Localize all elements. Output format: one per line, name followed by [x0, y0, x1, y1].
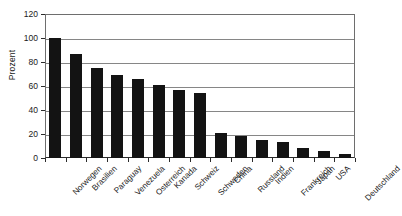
x-axis-tick — [107, 158, 108, 162]
x-axis-tick — [190, 158, 191, 162]
x-axis-tick-label: China — [232, 164, 254, 186]
bar — [318, 151, 330, 158]
x-axis-tick — [128, 158, 129, 162]
x-axis-tick — [86, 158, 87, 162]
x-axis-tick — [66, 158, 67, 162]
x-axis-tick-label: Schweiz — [193, 164, 221, 192]
x-axis-tick-label: USA — [334, 164, 352, 182]
y-axis-tick-label: 100 — [0, 34, 38, 43]
y-axis-tick-label: 0 — [0, 154, 38, 163]
bar — [194, 93, 206, 158]
x-axis-tick — [210, 158, 211, 162]
x-axis-tick — [334, 158, 335, 162]
x-axis-tick — [314, 158, 315, 162]
x-axis-tick — [272, 158, 273, 162]
bar — [153, 85, 165, 158]
bar — [256, 140, 268, 158]
bar — [173, 90, 185, 158]
x-axis-tick — [252, 158, 253, 162]
bar — [132, 79, 144, 158]
bars-layer — [45, 14, 355, 158]
x-axis-tick-label: Deutschland — [363, 164, 402, 203]
bar — [70, 54, 82, 158]
x-axis-tick — [169, 158, 170, 162]
bar — [297, 148, 309, 158]
bar — [339, 154, 351, 158]
bar — [277, 142, 289, 158]
bar — [91, 68, 103, 158]
x-axis-tick — [355, 158, 356, 162]
x-axis-tick — [45, 158, 46, 162]
y-axis-tick-label: 60 — [0, 82, 38, 91]
bar — [111, 75, 123, 158]
bar — [215, 133, 227, 158]
y-axis-tick-label: 20 — [0, 130, 38, 139]
bar — [235, 136, 247, 158]
y-axis-tick-label: 80 — [0, 58, 38, 67]
y-axis-tick-label: 40 — [0, 106, 38, 115]
x-axis-tick — [231, 158, 232, 162]
x-axis-tick — [148, 158, 149, 162]
y-axis-tick-label: 120 — [0, 10, 38, 19]
x-axis-tick — [293, 158, 294, 162]
bar — [49, 38, 61, 158]
